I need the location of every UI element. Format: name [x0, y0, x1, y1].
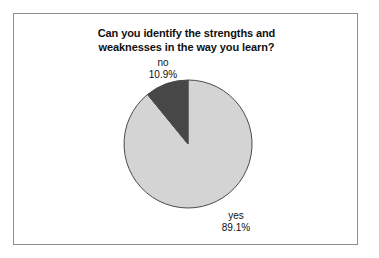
- pie-chart-plot-area: no 10.9% yes 89.1%: [14, 14, 359, 246]
- pie-label-no: no 10.9%: [123, 57, 203, 81]
- pie-label-no-value: 10.9%: [123, 69, 203, 81]
- chart-frame: Can you identify the strengths and weakn…: [13, 13, 358, 245]
- pie-label-yes-value: 89.1%: [196, 222, 276, 234]
- pie-chart-icon: [123, 79, 253, 209]
- pie-label-no-name: no: [123, 57, 203, 69]
- pie-label-yes: yes 89.1%: [196, 210, 276, 234]
- pie-label-yes-name: yes: [196, 210, 276, 222]
